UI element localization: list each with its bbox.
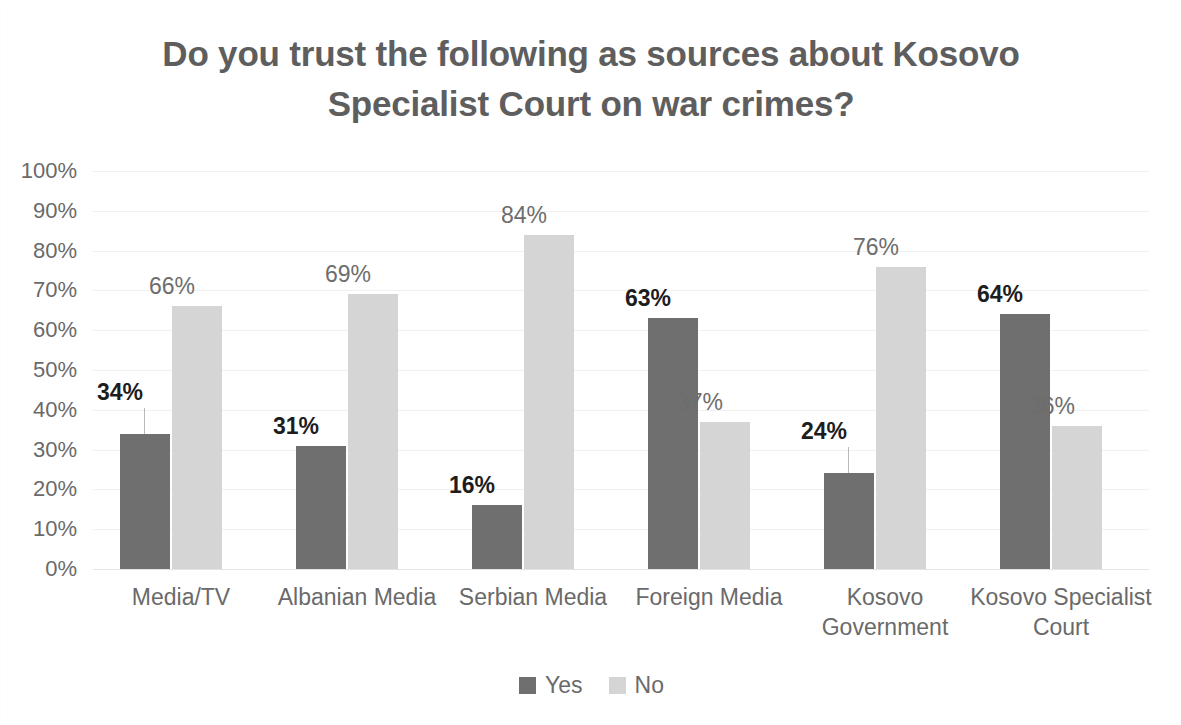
bar-yes[interactable] <box>1000 314 1050 569</box>
x-axis-tick-label-line: Foreign Media <box>609 583 809 613</box>
chart-legend: YesNo <box>1 672 1181 699</box>
bar-value-label-no: 69% <box>303 261 393 288</box>
x-axis-tick-label: KosovoGovernment <box>785 583 985 643</box>
x-axis-tick-label-line: Kosovo <box>785 583 985 613</box>
x-axis-tick-label: Foreign Media <box>609 583 809 613</box>
x-axis-tick-label-line: Albanian Media <box>257 583 457 613</box>
bar-yes[interactable] <box>472 505 522 569</box>
plot-area: 34%66%31%69%16%84%63%37%24%76%64%36% <box>93 171 1149 569</box>
axis-baseline <box>93 569 1149 570</box>
bar-yes[interactable] <box>648 318 698 569</box>
y-axis-tick-label: 90% <box>33 198 77 224</box>
bar-group: 63%37% <box>621 171 797 569</box>
y-axis-tick-label: 40% <box>33 397 77 423</box>
legend-label: No <box>635 672 664 699</box>
y-axis-tick-label: 10% <box>33 516 77 542</box>
legend-swatch-icon <box>609 677 626 694</box>
bar-value-label-yes: 16% <box>427 472 517 499</box>
bar-value-label-yes: 34% <box>75 379 165 406</box>
chart-title: Do you trust the following as sources ab… <box>111 29 1071 130</box>
y-axis: 100%90%80%70%60%50%40%30%20%10%0% <box>1 171 85 569</box>
y-axis-tick-label: 80% <box>33 238 77 264</box>
bar-no[interactable] <box>172 306 222 569</box>
bar-value-label-no: 37% <box>655 389 745 416</box>
bar-no[interactable] <box>348 294 398 569</box>
bar-value-label-no: 84% <box>479 202 569 229</box>
chart-title-line-1: Do you trust the following as sources ab… <box>111 29 1071 79</box>
y-axis-tick-label: 70% <box>33 277 77 303</box>
bar-yes[interactable] <box>120 434 170 569</box>
bar-no[interactable] <box>524 235 574 569</box>
bar-value-label-yes: 24% <box>779 418 869 445</box>
bar-value-label-yes: 63% <box>603 285 693 312</box>
y-axis-tick-label: 20% <box>33 476 77 502</box>
bar-no[interactable] <box>1052 426 1102 569</box>
label-leader-line <box>144 408 145 434</box>
bar-group: 34%66% <box>93 171 269 569</box>
y-axis-tick-label: 0% <box>45 556 77 582</box>
y-axis-tick-label: 60% <box>33 317 77 343</box>
x-axis-tick-label-line: Government <box>785 613 985 643</box>
x-axis-tick-label: Serbian Media <box>433 583 633 613</box>
bar-yes[interactable] <box>296 446 346 569</box>
x-axis-tick-label: Albanian Media <box>257 583 457 613</box>
bar-no[interactable] <box>700 422 750 569</box>
legend-label: Yes <box>545 672 583 699</box>
x-axis-tick-label-line: Media/TV <box>81 583 281 613</box>
x-axis-tick-label-line: Serbian Media <box>433 583 633 613</box>
y-axis-tick-label: 100% <box>21 158 77 184</box>
bar-value-label-no: 76% <box>831 234 921 261</box>
legend-swatch-icon <box>519 677 536 694</box>
x-axis-tick-label-line: Kosovo Specialist <box>961 583 1161 613</box>
bar-group: 24%76% <box>797 171 973 569</box>
bar-value-label-no: 66% <box>127 273 217 300</box>
bar-group: 16%84% <box>445 171 621 569</box>
bar-group: 31%69% <box>269 171 445 569</box>
bar-no[interactable] <box>876 267 926 569</box>
bar-group: 64%36% <box>973 171 1149 569</box>
label-leader-line <box>848 447 849 473</box>
legend-item[interactable]: Yes <box>519 672 583 699</box>
chart-title-line-2: Specialist Court on war crimes? <box>111 79 1071 129</box>
x-axis-tick-label: Media/TV <box>81 583 281 613</box>
y-axis-tick-label: 30% <box>33 437 77 463</box>
chart-container: Do you trust the following as sources ab… <box>0 0 1181 725</box>
bar-yes[interactable] <box>824 473 874 569</box>
x-axis-tick-label-line: Court <box>961 613 1161 643</box>
bar-value-label-yes: 64% <box>955 281 1045 308</box>
y-axis-tick-label: 50% <box>33 357 77 383</box>
x-axis-tick-label: Kosovo SpecialistCourt <box>961 583 1161 643</box>
bar-value-label-yes: 31% <box>251 413 341 440</box>
legend-item[interactable]: No <box>609 672 664 699</box>
bar-value-label-no: 36% <box>1007 393 1097 420</box>
